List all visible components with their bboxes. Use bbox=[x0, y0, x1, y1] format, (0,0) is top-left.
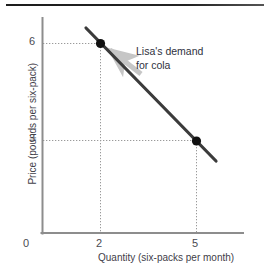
data-point-b[interactable] bbox=[192, 136, 201, 145]
y-axis-title: Price (pounds per six-pack) bbox=[27, 44, 39, 204]
demand-curve-label-line2: for cola bbox=[136, 58, 203, 72]
x-tick-label-5: 5 bbox=[192, 238, 198, 249]
demand-curve-label-line1: Lisa's demand bbox=[136, 44, 203, 58]
demand-curve-label: Lisa's demand for cola bbox=[136, 44, 203, 72]
data-point-a[interactable] bbox=[96, 39, 105, 48]
chart-figure: 6 3 0 2 5 Price (pounds per six-pack) Qu… bbox=[0, 0, 264, 275]
x-tick-label-0: 0 bbox=[23, 238, 29, 249]
x-axis-title: Quantity (six-packs per month) bbox=[98, 252, 234, 264]
chart-plot-area bbox=[0, 0, 264, 275]
x-tick-label-2: 2 bbox=[96, 238, 102, 249]
